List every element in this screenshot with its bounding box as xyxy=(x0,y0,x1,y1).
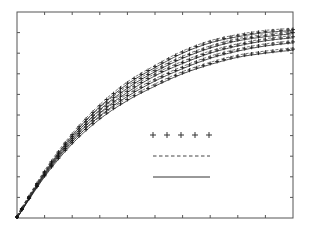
plus-marker xyxy=(125,85,129,89)
solid-curve xyxy=(17,34,293,218)
plot-curves xyxy=(15,28,295,219)
plus-marker xyxy=(125,98,129,102)
plus-marker xyxy=(132,76,136,80)
legend-plus-marker xyxy=(178,132,184,138)
legend-plus-marker xyxy=(192,132,198,138)
legend-plus-marker xyxy=(206,132,212,138)
plus-marker xyxy=(84,128,88,132)
legend xyxy=(150,132,212,177)
dashed-curve xyxy=(17,28,293,216)
legend-plus-marker xyxy=(164,132,170,138)
dashed-curve xyxy=(17,31,293,215)
solid-curve xyxy=(17,31,293,219)
plus-marker xyxy=(132,81,136,85)
plus-marker xyxy=(119,94,123,98)
plus-marker xyxy=(132,85,136,89)
plus-marker xyxy=(91,122,95,126)
plus-marker xyxy=(119,102,123,106)
line-chart xyxy=(0,0,310,233)
plus-marker xyxy=(125,89,129,93)
plus-marker xyxy=(125,81,129,85)
dashed-curve xyxy=(17,36,293,216)
legend-plus-marker xyxy=(150,132,156,138)
plus-marker xyxy=(125,93,129,97)
plus-marker xyxy=(77,134,81,138)
